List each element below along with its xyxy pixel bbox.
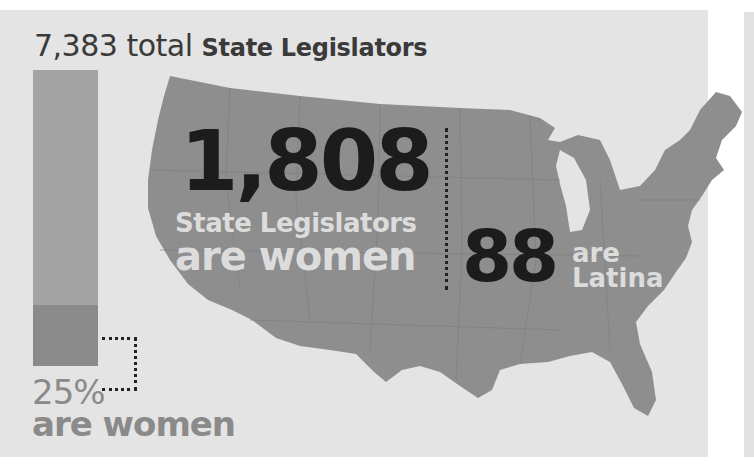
women-percent-label: are women xyxy=(32,404,235,444)
total-count: 7,383 total xyxy=(34,28,193,63)
chart-title: 7,383 total State Legislators xyxy=(34,28,427,63)
latina-count: 88 xyxy=(462,214,556,298)
women-share-segment xyxy=(33,305,98,366)
women-subtitle-line2: are women xyxy=(175,233,416,279)
divider-dots xyxy=(445,128,448,290)
latina-label-line2: Latina xyxy=(572,263,664,293)
percent-connector-dots xyxy=(102,337,137,391)
total-legislators-bar xyxy=(33,70,98,366)
total-label: State Legislators xyxy=(202,34,428,62)
women-count: 1,808 xyxy=(180,112,431,210)
